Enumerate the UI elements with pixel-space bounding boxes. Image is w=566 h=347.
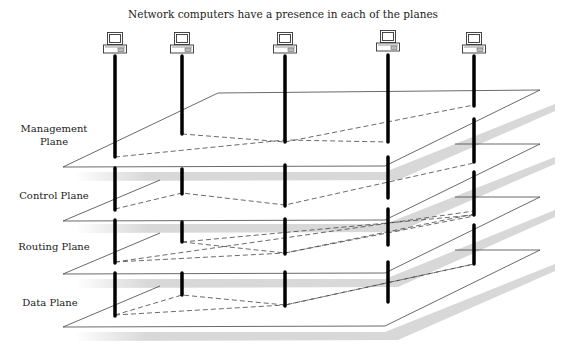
network-planes-diagram [0, 0, 566, 347]
desktop-computer-icon [274, 33, 297, 54]
data-plane-shadow [75, 264, 555, 341]
data-plane [63, 250, 540, 327]
desktop-computer-icon [463, 33, 486, 54]
routing-plane-shadow [75, 210, 555, 288]
routing-plane-links [115, 211, 474, 262]
control-plane-shadow [75, 157, 555, 233]
management-plane [63, 90, 540, 167]
computers [104, 31, 486, 54]
desktop-computer-icon [171, 33, 194, 54]
control-plane [63, 144, 540, 221]
desktop-computer-icon [104, 33, 127, 54]
management-plane-shadow [75, 104, 555, 181]
desktop-computer-icon [377, 31, 400, 52]
